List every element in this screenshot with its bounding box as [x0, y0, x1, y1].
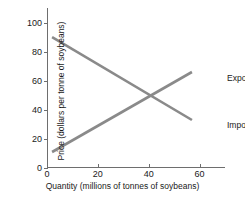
x-tick-label-40: 40 [144, 170, 154, 179]
y-tick-label-20: 20 [32, 134, 42, 143]
y-axis-title: Price (dollars per tonne of soybeans) [56, 11, 66, 171]
series-line-export-supply [52, 72, 192, 152]
x-axis-title: Quantity (millions of tonnes of soybeans… [0, 181, 245, 191]
series-label-import-demand: Import demand [227, 121, 245, 130]
y-tick-label-100: 100 [27, 18, 42, 27]
plot-area: 020406080100 0204060 Export supply Impor… [47, 8, 225, 168]
y-tick-label-80: 80 [32, 47, 42, 56]
x-tick-label-20: 20 [93, 170, 103, 179]
series-line-import-demand [52, 37, 192, 120]
x-tick-label-60: 60 [195, 170, 205, 179]
y-tick-label-40: 40 [32, 105, 42, 114]
series-curves [47, 8, 225, 168]
y-tick-label-60: 60 [32, 76, 42, 85]
series-label-export-supply: Export supply [227, 74, 245, 83]
chart-screenshot: 020406080100 0204060 Export supply Impor… [0, 0, 245, 204]
y-tick-label-0: 0 [37, 164, 42, 173]
x-tick-label-0: 0 [44, 170, 49, 179]
